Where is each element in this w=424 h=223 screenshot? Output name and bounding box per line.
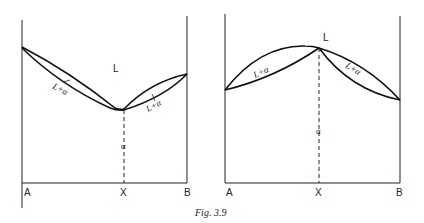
two-phase-label-left: L+α xyxy=(251,64,271,80)
axis-label-b: B xyxy=(396,187,403,198)
figure-caption: Fig. 3.9 xyxy=(194,207,226,218)
axis-label-b: B xyxy=(184,187,191,198)
figure-canvas: L L+α L+α α A X B L L+α L+α α A X B Fig.… xyxy=(0,0,424,223)
liquidus-curve-left xyxy=(22,47,124,109)
solid-label: α xyxy=(316,127,321,136)
tie-line-mark xyxy=(63,80,70,82)
two-phase-label-right: L+α xyxy=(143,97,163,114)
axis-label-x: X xyxy=(120,187,127,198)
liquidus-curve-right xyxy=(319,48,400,100)
liquidus-curve-left xyxy=(225,46,319,90)
solidus-curve-right xyxy=(319,48,400,100)
axis-label-x: X xyxy=(315,187,322,198)
axis-label-a: A xyxy=(24,187,31,198)
liquid-label: L xyxy=(323,32,329,43)
solidus-curve-left xyxy=(225,48,319,90)
solid-label: α xyxy=(121,142,126,151)
right-phase-diagram: L L+α L+α α A X B xyxy=(225,14,403,198)
left-phase-diagram: L L+α L+α α A X B xyxy=(22,16,191,208)
two-phase-label-right: L+α xyxy=(343,60,363,78)
solidus-curve-left xyxy=(22,48,124,110)
two-phase-label-left: L+α xyxy=(50,80,70,97)
liquid-label: L xyxy=(113,63,119,74)
axis-label-a: A xyxy=(226,187,233,198)
